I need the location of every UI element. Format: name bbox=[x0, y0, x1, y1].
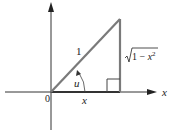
hypotenuse-label: 1 bbox=[76, 45, 82, 57]
base-label: x bbox=[81, 94, 87, 106]
opposite-side-label: 1 − x2 bbox=[125, 48, 158, 62]
x-axis-label: x bbox=[161, 86, 167, 98]
angle-label: u bbox=[74, 77, 80, 89]
sqrt-exponent: 2 bbox=[152, 50, 156, 58]
right-angle-marker bbox=[107, 79, 120, 92]
triangle-hypotenuse bbox=[51, 19, 120, 92]
angle-arc bbox=[79, 73, 85, 92]
svg-text:1 − x2: 1 − x2 bbox=[132, 50, 156, 62]
x-axis-arrow-icon bbox=[147, 89, 157, 95]
y-axis-arrow-icon bbox=[48, 2, 54, 12]
origin-label: 0 bbox=[45, 93, 50, 104]
sqrt-body: 1 − bbox=[132, 51, 148, 62]
triangle-diagram: 1 u 0 x x 1 − x2 bbox=[0, 0, 174, 139]
